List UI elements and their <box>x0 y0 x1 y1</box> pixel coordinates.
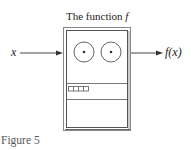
function-machine-diagram <box>0 0 191 150</box>
input-arrow-icon <box>20 51 63 56</box>
figure-caption: Figure 5 <box>1 134 40 146</box>
function-machine-box <box>64 28 131 131</box>
output-arrow-icon <box>131 51 163 56</box>
